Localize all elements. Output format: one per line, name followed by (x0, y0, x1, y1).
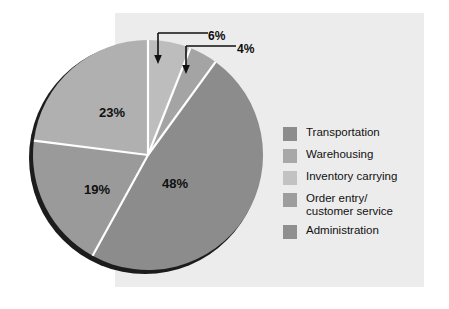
chart-legend: TransportationWarehousingInventory carry… (283, 126, 433, 246)
figure-canvas: 48% 19% 23% 6% 4% TransportationWarehous… (0, 0, 449, 309)
slice-label-48: 48% (162, 176, 188, 191)
legend-item-transportation[interactable]: Transportation (283, 126, 433, 141)
legend-item-order-entry[interactable]: Order entry/ customer service (283, 192, 433, 217)
legend-item-label: Warehousing (306, 148, 373, 161)
legend-swatch-icon (283, 171, 297, 185)
legend-swatch-icon (283, 127, 297, 141)
legend-item-warehousing[interactable]: Warehousing (283, 148, 433, 163)
legend-swatch-icon (283, 193, 297, 207)
legend-swatch-icon (283, 149, 297, 163)
legend-item-label: Administration (306, 224, 379, 237)
slice-label-19: 19% (84, 182, 110, 197)
legend-swatch-icon (283, 225, 297, 239)
slice-label-4: 4% (237, 42, 254, 56)
pie-slice-23 (34, 40, 148, 155)
slice-label-23: 23% (99, 105, 125, 120)
legend-item-administration[interactable]: Administration (283, 224, 433, 239)
legend-item-label: Transportation (306, 126, 380, 139)
legend-item-label: Order entry/ customer service (306, 192, 393, 217)
legend-item-inventory-carrying[interactable]: Inventory carrying (283, 170, 433, 185)
legend-item-label: Inventory carrying (306, 170, 397, 183)
slice-label-6: 6% (208, 29, 225, 43)
